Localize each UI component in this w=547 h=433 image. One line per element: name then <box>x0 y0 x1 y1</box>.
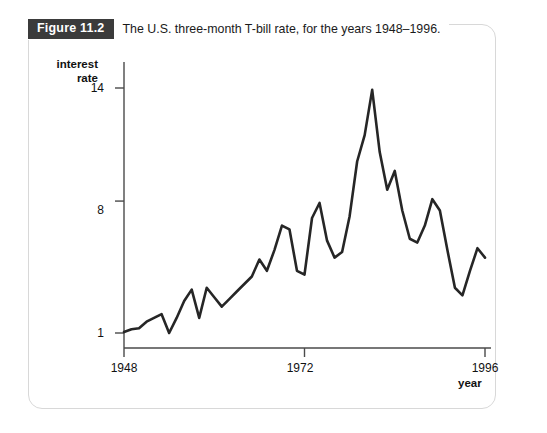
chart-svg <box>0 0 547 433</box>
figure-root: Figure 11.2 The U.S. three-month T-bill … <box>0 0 547 433</box>
tbill-rate-line <box>124 90 485 333</box>
chart-plot-area: interest rate 14 8 1 1948 1972 1996 year <box>0 0 547 433</box>
x-tick-marks <box>124 348 485 357</box>
y-tick-marks <box>115 88 124 333</box>
figure-number-badge: Figure 11.2 <box>28 19 114 39</box>
figure-caption-text: The U.S. three-month T-bill rate, for th… <box>123 23 441 35</box>
figure-caption-row: Figure 11.2 The U.S. three-month T-bill … <box>28 18 449 40</box>
